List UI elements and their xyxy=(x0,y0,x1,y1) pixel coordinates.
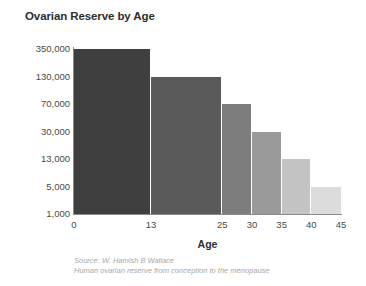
y-tick-label: 5,000 xyxy=(4,182,70,192)
bar xyxy=(282,159,312,214)
bar xyxy=(252,132,282,215)
y-tick-label: 30,000 xyxy=(4,127,70,137)
x-tick-label: 35 xyxy=(276,219,287,230)
bar xyxy=(74,49,151,214)
y-tick-label: 130,000 xyxy=(4,72,70,82)
x-tick-label: 25 xyxy=(217,219,228,230)
y-tick-label: 1,000 xyxy=(4,209,70,219)
x-tick-label: 13 xyxy=(146,219,157,230)
bar xyxy=(151,77,222,215)
x-tick-label: 45 xyxy=(336,219,347,230)
x-tick-label: 40 xyxy=(306,219,317,230)
x-axis-title: Age xyxy=(74,238,341,250)
y-tick-label: 350,000 xyxy=(4,44,70,54)
source-line-1: Source: W. Hamish B Wallace xyxy=(74,256,354,266)
source-line-2: Human ovarian reserve from conception to… xyxy=(74,266,354,276)
x-tick-label: 0 xyxy=(71,219,76,230)
y-axis-tick-labels: 350,000130,00070,00030,00013,0005,0001,0… xyxy=(0,0,70,286)
plot-area xyxy=(74,49,341,214)
x-tick-label: 30 xyxy=(247,219,258,230)
bar xyxy=(222,104,252,214)
y-tick-label: 70,000 xyxy=(4,99,70,109)
bar xyxy=(311,187,341,215)
x-axis-tick-labels: 0132530354045 xyxy=(0,219,366,235)
x-axis-line xyxy=(73,214,342,215)
source-caption: Source: W. Hamish B Wallace Human ovaria… xyxy=(74,256,354,276)
chart-container: Ovarian Reserve by Age 350,000130,00070,… xyxy=(0,0,366,286)
y-tick-label: 13,000 xyxy=(4,154,70,164)
